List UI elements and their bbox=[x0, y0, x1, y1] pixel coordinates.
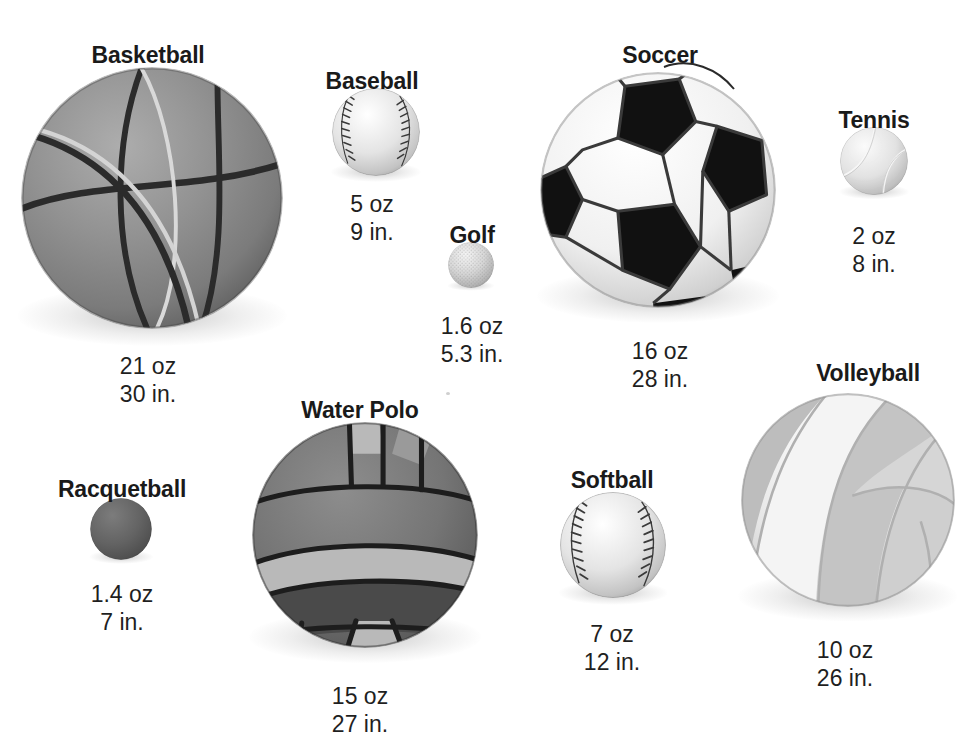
ball-circumference: 26 in. bbox=[817, 664, 873, 692]
ball-weight: 10 oz bbox=[817, 636, 873, 664]
ball-stats: 2 oz8 in. bbox=[852, 222, 895, 278]
ball-weight: 15 oz bbox=[332, 682, 388, 710]
ball-stats: 21 oz30 in. bbox=[120, 352, 176, 408]
ball-name-label: Basketball bbox=[91, 42, 204, 69]
ball-weight: 21 oz bbox=[120, 352, 176, 380]
ball-stats: 16 oz28 in. bbox=[632, 337, 688, 393]
ball-circumference: 5.3 in. bbox=[441, 340, 504, 368]
racquetball-ball-image bbox=[90, 498, 152, 560]
ball-stats: 1.6 oz5.3 in. bbox=[441, 312, 504, 368]
ball-stats: 10 oz26 in. bbox=[817, 636, 873, 692]
soccer-seam-arc-line bbox=[660, 55, 750, 99]
volleyball-ball-image bbox=[741, 393, 955, 607]
ball-name-label: Tennis bbox=[838, 107, 909, 134]
ball-name-label: Baseball bbox=[325, 68, 418, 95]
ball-name-label: Racquetball bbox=[58, 476, 186, 503]
ball-stats: 1.4 oz7 in. bbox=[91, 580, 154, 636]
ball-circumference: 8 in. bbox=[852, 250, 895, 278]
sports-balls-figure: Basketball21 oz30 in. Baseball5 oz9 in. bbox=[0, 0, 976, 752]
baseball-ball-image bbox=[332, 88, 420, 176]
ball-name-label: Water Polo bbox=[301, 397, 418, 424]
waterpolo-ball-image bbox=[252, 422, 478, 648]
basketball-ball-image bbox=[21, 67, 283, 329]
tennis-ball-image bbox=[840, 127, 908, 195]
ball-circumference: 12 in. bbox=[584, 648, 640, 676]
ball-circumference: 7 in. bbox=[91, 608, 154, 636]
softball-ball-image bbox=[560, 492, 666, 598]
ball-weight: 2 oz bbox=[852, 222, 895, 250]
ball-circumference: 30 in. bbox=[120, 380, 176, 408]
ball-stats: 5 oz9 in. bbox=[350, 190, 393, 246]
ball-weight: 5 oz bbox=[350, 190, 393, 218]
ball-circumference: 28 in. bbox=[632, 365, 688, 393]
ball-stats: 15 oz27 in. bbox=[332, 682, 388, 738]
soccer-ball-image bbox=[540, 72, 776, 308]
ball-weight: 1.6 oz bbox=[441, 312, 504, 340]
ball-name-label: Volleyball bbox=[816, 360, 920, 387]
ball-weight: 1.4 oz bbox=[91, 580, 154, 608]
ball-name-label: Softball bbox=[571, 467, 654, 494]
ball-weight: 16 oz bbox=[632, 337, 688, 365]
ball-stats: 7 oz12 in. bbox=[584, 620, 640, 676]
ball-weight: 7 oz bbox=[584, 620, 640, 648]
ball-circumference: 9 in. bbox=[350, 218, 393, 246]
ball-circumference: 27 in. bbox=[332, 710, 388, 738]
ball-name-label: Golf bbox=[449, 222, 494, 249]
image-speck-artifact bbox=[446, 392, 450, 395]
